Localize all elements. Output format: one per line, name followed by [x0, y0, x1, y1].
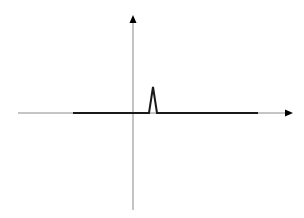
- y-axis-arrow-icon: [130, 15, 137, 23]
- signal-trace: [73, 87, 258, 113]
- signal-diagram: [0, 0, 304, 218]
- x-axis-arrow-icon: [285, 110, 293, 117]
